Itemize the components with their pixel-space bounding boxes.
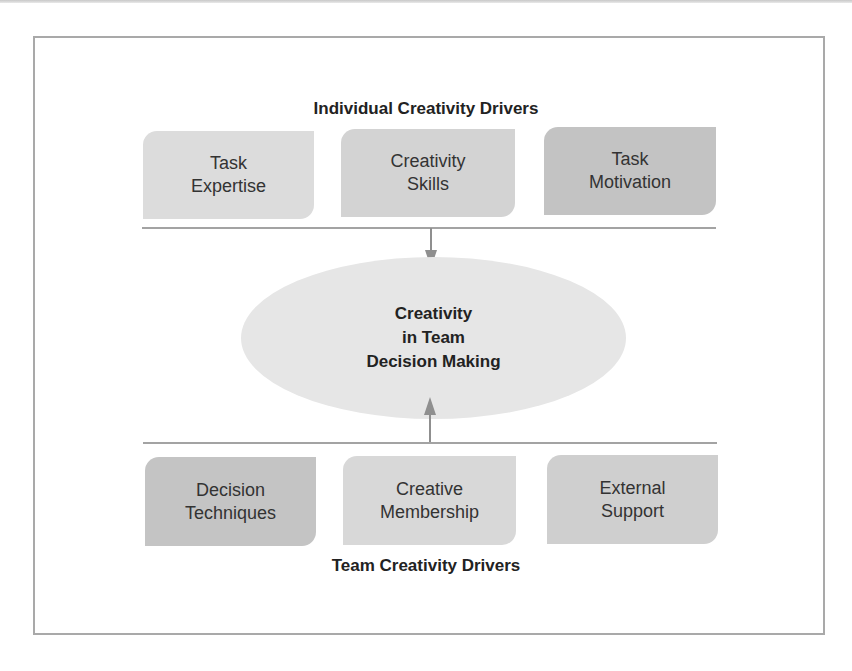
driver-box-creative-membership: Creative Membership: [343, 456, 516, 545]
driver-box-line2: Support: [599, 500, 665, 523]
driver-box-task-motivation: Task Motivation: [544, 127, 716, 215]
driver-box-line1: Creative: [380, 478, 479, 501]
individual-drivers-heading: Individual Creativity Drivers: [0, 99, 852, 119]
driver-box-line2: Expertise: [191, 175, 266, 198]
team-drivers-heading: Team Creativity Drivers: [0, 556, 852, 576]
driver-box-line1: External: [599, 477, 665, 500]
driver-box-line1: Creativity: [390, 150, 465, 173]
bottom-divider-line: [143, 442, 717, 444]
center-line-3: Decision Making: [366, 350, 500, 374]
driver-box-line2: Motivation: [589, 171, 671, 194]
driver-box-creativity-skills: Creativity Skills: [341, 129, 515, 217]
driver-box-task-expertise: Task Expertise: [143, 131, 314, 219]
driver-box-line1: Decision: [185, 479, 276, 502]
driver-box-external-support: External Support: [547, 455, 718, 544]
page-edge-line: [0, 0, 852, 3]
driver-box-line2: Membership: [380, 501, 479, 524]
driver-box-line1: Task: [191, 152, 266, 175]
driver-box-line1: Task: [589, 148, 671, 171]
center-line-1: Creativity: [395, 302, 472, 326]
arrow-up-icon: [420, 397, 440, 443]
center-line-2: in Team: [402, 326, 465, 350]
driver-box-line2: Skills: [390, 173, 465, 196]
center-ellipse-creativity-in-team-decision-making: Creativity in Team Decision Making: [241, 257, 626, 419]
driver-box-line2: Techniques: [185, 502, 276, 525]
driver-box-decision-techniques: Decision Techniques: [145, 457, 316, 546]
